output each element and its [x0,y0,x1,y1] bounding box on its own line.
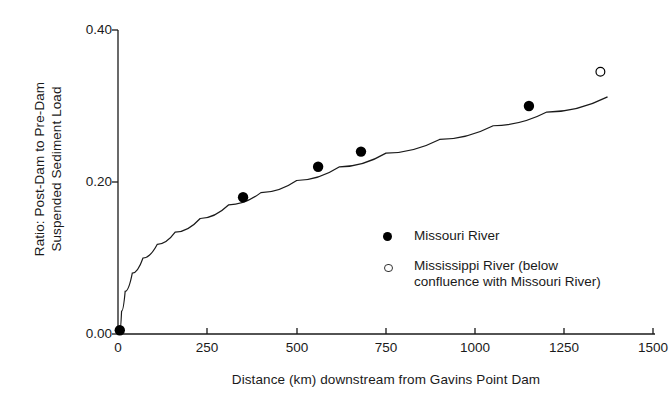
legend-label-mississippi-river: Mississippi River (below confluence with… [414,258,653,291]
filled-circle-icon [383,232,392,241]
x-axis-ticks [118,328,653,334]
open-circle-icon [384,264,393,273]
data-point [115,325,125,335]
y-axis-ticks [112,30,118,334]
legend-item-mississippi-river: Mississippi River (below confluence with… [383,258,653,291]
legend-item-missouri-river: Missouri River [383,228,653,245]
data-point [524,101,534,111]
data-point [313,162,323,172]
legend: Missouri River Mississippi River (below … [383,228,653,304]
plot-area [0,0,670,408]
data-markers-mississippi-river [596,67,605,76]
data-point [356,146,366,156]
data-point [596,67,605,76]
data-point [238,192,248,202]
legend-label-missouri-river: Missouri River [414,228,653,245]
chart-figure: Ratio: Post-Dam to Pre-Dam Suspended Sed… [0,0,670,408]
